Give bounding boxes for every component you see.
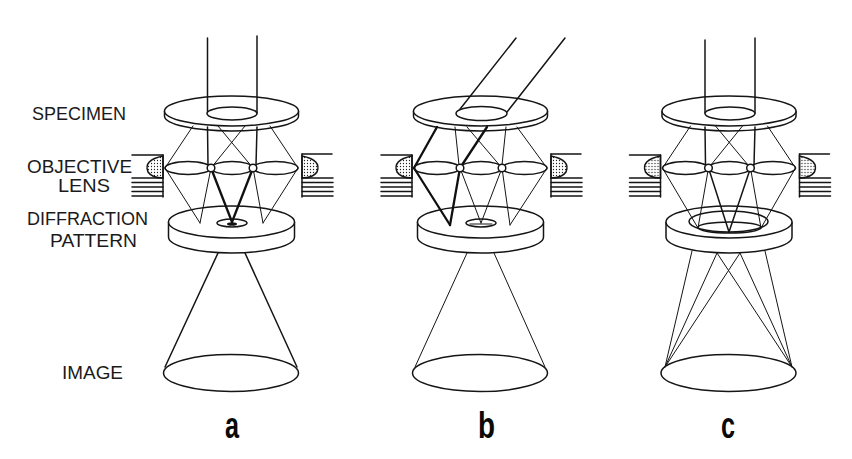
panel-c: c — [630, 38, 831, 446]
panel-a: a — [132, 36, 333, 446]
panel-a-central-spot — [227, 222, 237, 226]
label-objective: OBJECTIVE — [27, 157, 132, 177]
panel-label-a: a — [225, 405, 239, 446]
panel-b-image-cone-left — [415, 253, 467, 367]
panel-c-base-optics — [630, 96, 831, 392]
panel-b-beam-right — [507, 38, 565, 112]
electron-microscope-imaging-diagram: SPECIMEN OBJECTIVE LENS DIFFRACTION PATT… — [0, 0, 852, 459]
panel-a-objective-lens — [165, 162, 298, 175]
panel-c-specimen-spot — [705, 107, 755, 120]
panel-c-objective-lens — [663, 162, 796, 175]
label-pattern: PATTERN — [50, 231, 137, 251]
panel-a-image-cone-left — [165, 253, 218, 367]
panel-b-specimen-spot — [456, 107, 507, 121]
panel-b-base-optics — [381, 96, 582, 392]
panel-b-objective-lens — [414, 162, 547, 175]
panel-b: b — [381, 38, 582, 446]
panel-label-c: c — [721, 405, 735, 446]
label-specimen: SPECIMEN — [32, 104, 126, 124]
panel-a-specimen-spot — [207, 107, 257, 120]
label-image: IMAGE — [62, 363, 123, 383]
label-lens: LENS — [58, 176, 110, 196]
panel-label-b: b — [478, 405, 495, 446]
panel-a-image-cone-right — [245, 253, 297, 367]
panel-a-base-optics — [132, 96, 333, 392]
row-labels: SPECIMEN OBJECTIVE LENS DIFFRACTION PATT… — [27, 104, 148, 383]
label-diffraction: DIFFRACTION — [27, 209, 148, 229]
panel-c-image-rays — [665, 251, 792, 367]
panel-b-image-cone-right — [494, 253, 545, 367]
